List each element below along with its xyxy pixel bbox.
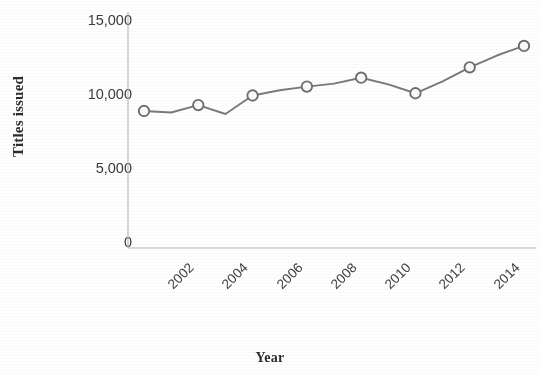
- plot-area: [0, 0, 540, 374]
- data-point-markers: [139, 41, 529, 117]
- axis-lines: [128, 12, 536, 248]
- line-chart-figure: Titles issued Year 05,00010,00015,000 20…: [0, 0, 540, 374]
